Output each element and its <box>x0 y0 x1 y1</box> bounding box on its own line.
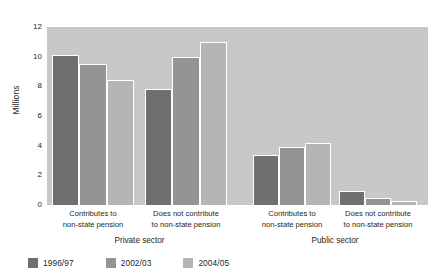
category-label-0: Contributes tonon-state pension <box>39 209 147 230</box>
y-tick-12: 12 <box>0 23 42 31</box>
category-label-line: to non-state pension <box>324 220 432 231</box>
legend-swatch-icon <box>28 258 38 268</box>
y-tick-10: 10 <box>0 53 42 61</box>
bar-group <box>52 27 134 205</box>
legend-swatch-icon <box>106 258 116 268</box>
y-axis-label: Millions <box>11 65 21 135</box>
y-tick-8: 8 <box>0 82 42 90</box>
axis-baseline <box>47 205 428 206</box>
sector-label-0: Private sector <box>70 236 210 245</box>
category-label-line: Contributes to <box>39 209 147 220</box>
legend-label: 2002/03 <box>121 258 152 268</box>
bar-chart-figure: Millions 121086420 Contributes tonon-sta… <box>0 0 436 279</box>
bar-2002-03-g2 <box>279 147 305 205</box>
legend-item-2002-03[interactable]: 2002/03 <box>106 258 152 268</box>
bar-2004-05-g1 <box>200 42 227 205</box>
bar-2004-05-g2 <box>305 143 331 205</box>
bar-2004-05-g0 <box>107 80 134 205</box>
legend-swatch-icon <box>183 258 193 268</box>
legend-label: 2004/05 <box>198 258 229 268</box>
legend-label: 1996/97 <box>43 258 74 268</box>
sector-label-1: Public sector <box>265 236 405 245</box>
bar-1996-97-g3 <box>339 191 365 205</box>
bar-group <box>145 27 227 205</box>
bar-group <box>339 27 417 205</box>
y-tick-4: 4 <box>0 142 42 150</box>
category-label-line: to non-state pension <box>132 220 240 231</box>
bar-1996-97-g1 <box>145 89 172 205</box>
bar-2002-03-g3 <box>365 198 391 205</box>
legend-item-1996-97[interactable]: 1996/97 <box>28 258 74 268</box>
category-label-line: Does not contribute <box>132 209 240 220</box>
y-tick-2: 2 <box>0 171 42 179</box>
category-label-line: Does not contribute <box>324 209 432 220</box>
category-label-3: Does not contributeto non-state pension <box>324 209 432 230</box>
category-label-1: Does not contributeto non-state pension <box>132 209 240 230</box>
y-tick-6: 6 <box>0 112 42 120</box>
bar-2002-03-g0 <box>79 64 106 205</box>
legend-item-2004-05[interactable]: 2004/05 <box>183 258 229 268</box>
chart-legend: 1996/972002/032004/05 <box>28 258 229 268</box>
cropped-title-remnant <box>0 0 436 6</box>
plot-area <box>47 27 428 205</box>
bar-2002-03-g1 <box>172 57 199 205</box>
bar-1996-97-g0 <box>52 55 79 205</box>
bar-1996-97-g2 <box>253 155 279 205</box>
y-tick-0: 0 <box>0 201 42 209</box>
category-label-line: non-state pension <box>39 220 147 231</box>
bar-group <box>253 27 331 205</box>
